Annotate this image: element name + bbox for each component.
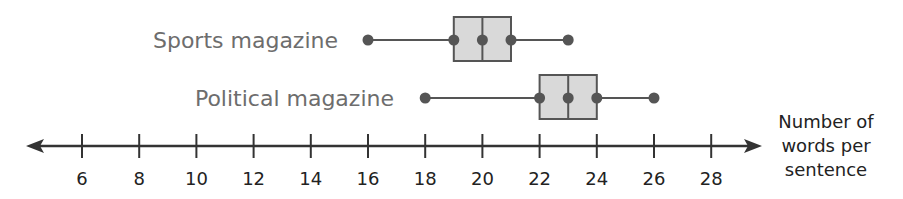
max-point (649, 93, 660, 104)
min-point (420, 93, 431, 104)
median-point (477, 35, 488, 46)
tick-label: 14 (299, 168, 322, 189)
tick-label: 20 (471, 168, 494, 189)
tick-label: 24 (585, 168, 608, 189)
max-point (563, 35, 574, 46)
median-point (563, 93, 574, 104)
tick-label: 18 (414, 168, 437, 189)
number-line-axis: 6810121416182022242628 (26, 134, 762, 189)
axis-title-line-3: sentence (785, 159, 867, 180)
axis-title: Number of words per sentence (778, 111, 874, 180)
tick-label: 12 (242, 168, 265, 189)
q3-point (591, 93, 602, 104)
axis-ticks: 6810121416182022242628 (76, 134, 722, 189)
tick-label: 6 (76, 168, 87, 189)
tick-label: 26 (643, 168, 666, 189)
q1-point (534, 93, 545, 104)
q3-point (506, 35, 517, 46)
min-point (363, 35, 374, 46)
tick-label: 16 (357, 168, 380, 189)
q1-point (448, 35, 459, 46)
tick-label: 10 (185, 168, 208, 189)
boxplot-row: Sports magazine (153, 17, 574, 61)
axis-title-line-2: words per (781, 135, 871, 156)
tick-label: 8 (133, 168, 144, 189)
series-layer: Sports magazinePolitical magazine (153, 17, 660, 119)
tick-label: 22 (528, 168, 551, 189)
boxplot-row: Political magazine (195, 75, 660, 119)
series-label: Political magazine (195, 86, 394, 111)
tick-label: 28 (700, 168, 723, 189)
series-label: Sports magazine (153, 28, 338, 53)
axis-title-line-1: Number of (778, 111, 874, 132)
box-and-whisker-plot: Sports magazinePolitical magazine 681012… (0, 0, 903, 199)
